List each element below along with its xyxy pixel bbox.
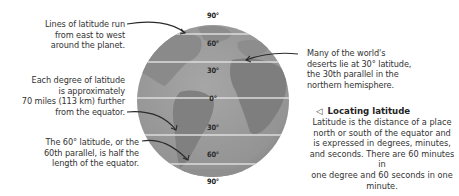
caption-body: Latitude is the distance of a place nort… (305, 117, 459, 191)
label-90-south: 90° (207, 177, 219, 186)
caption-locating-latitude: ◁ Locating latitude Latitude is the dist… (305, 106, 459, 191)
annotation-deserts: Many of the world's deserts lie at 30° l… (307, 48, 457, 90)
triangle-pointer-icon: ◁ (316, 106, 323, 116)
label-60-south: 60° (207, 150, 219, 159)
annotation-each-degree: Each degree of latitude is approximately… (0, 75, 125, 117)
latitude-diagram: 90° 60° 30° 0° 30° 60° 90° Lines of lati… (0, 0, 459, 196)
arrow-lines-of-latitude (127, 22, 185, 33)
label-30-north: 30° (207, 66, 219, 75)
label-60-north: 60° (207, 39, 219, 48)
globe (130, 25, 300, 190)
annotation-sixtieth-parallel: The 60° latitude, or the 60th parallel, … (0, 137, 139, 169)
annotation-lines-of-latitude: Lines of latitude run from east to west … (0, 19, 125, 51)
label-equator: 0° (209, 94, 217, 103)
label-90-north: 90° (207, 11, 219, 20)
label-30-south: 30° (207, 123, 219, 132)
caption-title: ◁ Locating latitude (316, 106, 459, 117)
